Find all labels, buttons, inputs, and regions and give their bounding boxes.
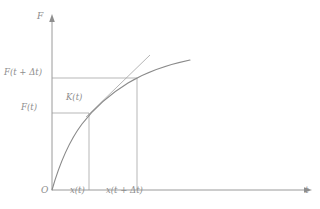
- y-tick-label-f-t-dt: F(t + Δt): [4, 68, 42, 77]
- y-axis-label: F: [37, 12, 43, 21]
- origin-label: O: [41, 186, 48, 195]
- x-tick-label-x-t: x(t): [70, 186, 85, 195]
- production-function-chart: [0, 0, 320, 209]
- y-tick-label-f-t: F(t): [21, 103, 37, 112]
- x-tick-label-x-t-dt: x(t + Δt): [106, 186, 143, 195]
- production-curve: [52, 60, 190, 190]
- tangent-slope-label: K(t): [66, 93, 82, 102]
- figure-container: F t O F(t + Δt) F(t) x(t) x(t + Δt) K(t): [0, 0, 320, 209]
- x-axis-label: t: [305, 186, 309, 195]
- y-axis-arrow-icon: [49, 14, 55, 22]
